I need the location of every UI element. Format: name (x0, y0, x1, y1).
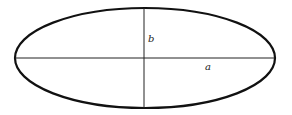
semi-major-label: a (205, 61, 211, 72)
semi-minor-label: b (148, 33, 154, 44)
ellipse-diagram: b a (0, 0, 292, 115)
